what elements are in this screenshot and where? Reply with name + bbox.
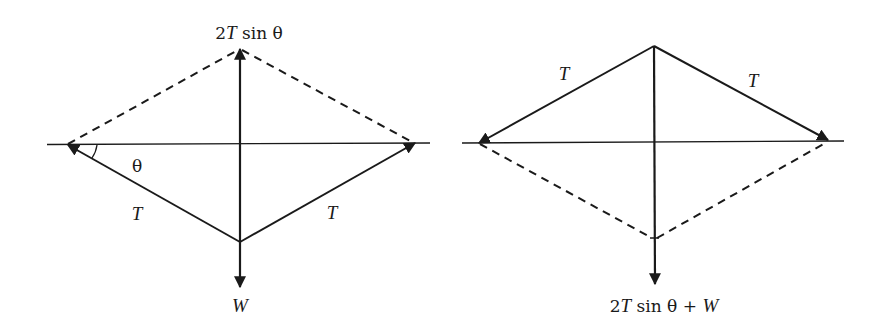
right-diagram [462, 46, 844, 284]
force-diagram-figure: 2T sin θ θ T T W T T 2T sin θ + W [0, 0, 887, 332]
right-label-tension-left: T [559, 64, 570, 83]
label-var-t: T [226, 22, 237, 43]
left-tension-vector-left [68, 145, 240, 242]
label-sin-theta-plus: sin θ + [631, 296, 702, 316]
left-dashed-side-left [68, 50, 238, 144]
label-sin-theta: sin θ [237, 23, 283, 43]
right-tension-vector-left [479, 46, 654, 143]
left-label-angle-theta: θ [132, 158, 142, 175]
right-horizontal-axis [462, 141, 844, 143]
left-angle-arc [92, 145, 97, 158]
right-label-tension-right: T [748, 71, 759, 90]
left-dashed-side-right [242, 50, 414, 143]
left-label-tension-right: T [327, 203, 338, 222]
label-coefficient: 2 [610, 296, 621, 316]
left-label-tension-left: T [132, 204, 143, 223]
label-var-t: T [621, 295, 632, 316]
label-var-w: W [702, 295, 718, 316]
right-resultant-vector-down [654, 46, 655, 284]
left-tension-vector-right [240, 143, 415, 242]
right-tension-vector-right [654, 46, 828, 140]
right-label-resultant-down: 2T sin θ + W [610, 296, 718, 315]
right-dashed-side-left [480, 144, 652, 238]
right-dashed-side-right [657, 142, 827, 238]
label-coefficient: 2 [215, 23, 226, 43]
left-diagram [47, 49, 430, 287]
left-horizontal-axis [47, 143, 430, 145]
left-label-weight: W [232, 296, 248, 315]
left-label-resultant-up: 2T sin θ [215, 23, 283, 42]
